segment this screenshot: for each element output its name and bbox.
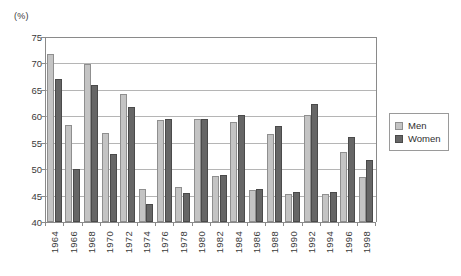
y-axis-tick-mark bbox=[41, 90, 45, 91]
x-axis-tick-mark bbox=[283, 222, 284, 226]
bar-men-1968[interactable] bbox=[84, 64, 91, 222]
x-axis-tick-mark bbox=[210, 222, 211, 226]
x-axis-tick-mark bbox=[192, 222, 193, 226]
bar-men-1982[interactable] bbox=[212, 176, 219, 222]
y-axis-unit-label: (%) bbox=[14, 11, 29, 21]
bar-women-1964[interactable] bbox=[55, 79, 62, 222]
bar-women-1992[interactable] bbox=[311, 104, 318, 222]
x-axis-tick-label: 1976 bbox=[159, 231, 170, 253]
x-axis-tick-label: 1966 bbox=[68, 231, 79, 253]
x-axis-tick-label: 1986 bbox=[251, 231, 262, 253]
bar-women-1978[interactable] bbox=[183, 193, 190, 222]
bar-women-1976[interactable] bbox=[165, 119, 172, 222]
legend: Men Women bbox=[389, 113, 449, 151]
legend-item-men[interactable]: Men bbox=[395, 119, 441, 132]
bar-men-1990[interactable] bbox=[285, 194, 292, 222]
bar-women-1966[interactable] bbox=[73, 169, 80, 222]
x-axis-tick-mark bbox=[137, 222, 138, 226]
y-axis-tick-label: 40 bbox=[12, 217, 42, 228]
bar-women-1986[interactable] bbox=[256, 189, 263, 222]
x-axis-tick-mark bbox=[63, 222, 64, 226]
x-axis-tick-mark bbox=[118, 222, 119, 226]
x-axis-tick-mark bbox=[45, 222, 46, 226]
bar-men-1980[interactable] bbox=[194, 119, 201, 222]
legend-item-women[interactable]: Women bbox=[395, 132, 441, 145]
x-axis-tick-mark bbox=[265, 222, 266, 226]
bar-men-1972[interactable] bbox=[120, 94, 127, 222]
bar-group bbox=[83, 37, 101, 222]
bar-women-1994[interactable] bbox=[330, 192, 337, 222]
bar-women-1974[interactable] bbox=[146, 204, 153, 222]
x-axis-tick-label: 1964 bbox=[49, 231, 60, 253]
bar-men-1992[interactable] bbox=[304, 115, 311, 222]
y-axis-tick-mark bbox=[41, 169, 45, 170]
bar-women-1990[interactable] bbox=[293, 192, 300, 222]
bar-women-1998[interactable] bbox=[366, 160, 373, 222]
bar-women-1970[interactable] bbox=[110, 154, 117, 222]
x-axis-tick-label: 1994 bbox=[324, 231, 335, 253]
bar-men-1998[interactable] bbox=[359, 177, 366, 222]
bar-men-1988[interactable] bbox=[267, 134, 274, 222]
x-axis-tick-mark bbox=[357, 222, 358, 226]
bar-men-1994[interactable] bbox=[322, 194, 329, 222]
bar-men-1978[interactable] bbox=[175, 187, 182, 222]
y-axis-tick-label: 65 bbox=[12, 84, 42, 95]
x-axis-tick-label: 1988 bbox=[269, 231, 280, 253]
y-axis-tick-label: 45 bbox=[12, 190, 42, 201]
x-axis-tick-label: 1990 bbox=[288, 231, 299, 253]
bar-women-1996[interactable] bbox=[348, 137, 355, 222]
legend-label-men: Men bbox=[408, 120, 426, 131]
bar-men-1996[interactable] bbox=[340, 152, 347, 222]
bar-men-1964[interactable] bbox=[47, 54, 54, 222]
bar-women-1980[interactable] bbox=[201, 119, 208, 222]
x-axis-tick-label: 1978 bbox=[178, 231, 189, 253]
bar-group bbox=[64, 37, 82, 222]
bar-women-1984[interactable] bbox=[238, 115, 245, 222]
y-axis-tick-mark bbox=[41, 143, 45, 144]
bar-men-1984[interactable] bbox=[230, 122, 237, 222]
y-axis-tick-label: 75 bbox=[12, 32, 42, 43]
bar-group bbox=[46, 37, 64, 222]
x-axis-tick-label: 1972 bbox=[123, 231, 134, 253]
bar-men-1966[interactable] bbox=[65, 125, 72, 222]
x-axis-tick-mark bbox=[247, 222, 248, 226]
bar-men-1976[interactable] bbox=[157, 120, 164, 222]
bar-group bbox=[339, 37, 357, 222]
bar-group bbox=[358, 37, 376, 222]
x-axis-tick-label: 1970 bbox=[104, 231, 115, 253]
x-axis-tick-label: 1982 bbox=[214, 231, 225, 253]
bar-group bbox=[174, 37, 192, 222]
bar-women-1982[interactable] bbox=[220, 175, 227, 222]
legend-swatch-women-icon bbox=[395, 135, 403, 143]
bar-group bbox=[138, 37, 156, 222]
bar-women-1988[interactable] bbox=[275, 126, 282, 222]
x-axis-tick-mark bbox=[228, 222, 229, 226]
bar-men-1974[interactable] bbox=[139, 189, 146, 222]
x-axis-tick-label: 1980 bbox=[196, 231, 207, 253]
legend-label-women: Women bbox=[408, 133, 441, 144]
y-axis-tick-label: 70 bbox=[12, 58, 42, 69]
plot-right-edge bbox=[376, 37, 377, 222]
bar-chart: (%) Men Women 40455055606570751964196619… bbox=[0, 0, 461, 276]
bar-group bbox=[211, 37, 229, 222]
bar-group bbox=[266, 37, 284, 222]
legend-swatch-men-icon bbox=[395, 122, 403, 130]
bar-group bbox=[284, 37, 302, 222]
x-axis-tick-mark bbox=[302, 222, 303, 226]
x-axis-tick-label: 1974 bbox=[141, 231, 152, 253]
bar-group bbox=[156, 37, 174, 222]
x-axis-tick-label: 1998 bbox=[361, 231, 372, 253]
y-axis-tick-mark bbox=[41, 63, 45, 64]
bar-men-1970[interactable] bbox=[102, 133, 109, 222]
bar-men-1986[interactable] bbox=[249, 190, 256, 222]
y-axis-tick-mark bbox=[41, 116, 45, 117]
bar-group bbox=[321, 37, 339, 222]
x-axis-tick-mark bbox=[338, 222, 339, 226]
x-axis-tick-mark bbox=[155, 222, 156, 226]
y-axis-tick-label: 60 bbox=[12, 111, 42, 122]
x-axis-tick-label: 1992 bbox=[306, 231, 317, 253]
bar-women-1972[interactable] bbox=[128, 107, 135, 222]
bar-group bbox=[229, 37, 247, 222]
x-axis-tick-mark bbox=[173, 222, 174, 226]
bar-women-1968[interactable] bbox=[91, 85, 98, 222]
